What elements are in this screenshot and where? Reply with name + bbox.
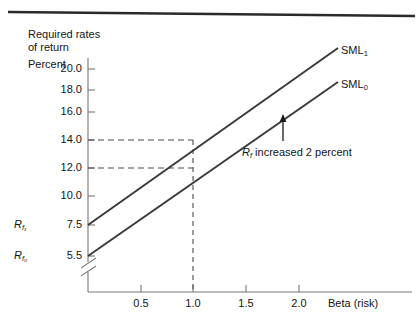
x-axis-title: Beta (risk)	[328, 297, 378, 310]
x-tick-label-1-5: 1.5	[226, 297, 266, 310]
rf0-label: Rf₀	[14, 249, 27, 262]
annotation-rf-symbol: R	[242, 146, 250, 158]
rf0-symbol: R	[14, 249, 22, 261]
annotation-body: increased 2 percent	[252, 146, 352, 158]
sml1-label: SML1	[341, 44, 368, 57]
rf1-subscript: f₁	[22, 223, 26, 232]
y-tick-label-12: 12.0	[40, 161, 82, 174]
sml1-subscript: 1	[364, 49, 368, 58]
y-tick-label-16: 16.0	[40, 105, 82, 118]
sml1-line	[88, 48, 338, 225]
y-tick-label-20: 20.0	[40, 62, 82, 75]
y-tick-label-14: 14.0	[40, 133, 82, 146]
y-tick-label-18: 18.0	[40, 83, 82, 96]
y-tick-label-10: 10.0	[40, 189, 82, 202]
chart-header-line-2: of return	[28, 41, 69, 54]
sml0-text: SML	[341, 78, 364, 90]
x-tick-label-0-5: 0.5	[121, 297, 161, 310]
annotation-rf-subscript: f	[250, 151, 252, 160]
sml0-line	[88, 82, 338, 256]
sml1-text: SML	[341, 44, 364, 56]
chart-header-line-1: Required rates	[28, 28, 100, 41]
y-tick-label-5-5: 5.5	[40, 249, 82, 262]
shift-annotation: Rf increased 2 percent	[242, 146, 352, 159]
x-tick-marks	[141, 285, 299, 292]
rf1-symbol: R	[14, 218, 22, 230]
rf1-label: Rf₁	[14, 218, 26, 231]
x-tick-label-1-0: 1.0	[173, 297, 213, 310]
rf0-subscript: f₀	[22, 254, 27, 263]
top-rule	[8, 12, 415, 16]
y-tick-label-7-5: 7.5	[40, 218, 82, 231]
x-tick-label-2-0: 2.0	[279, 297, 319, 310]
sml0-subscript: 0	[364, 83, 368, 92]
figure-container: Required rates of return Percent 20.0 18…	[0, 0, 419, 336]
sml0-label: SML0	[341, 78, 368, 91]
y-tick-marks	[88, 69, 95, 256]
